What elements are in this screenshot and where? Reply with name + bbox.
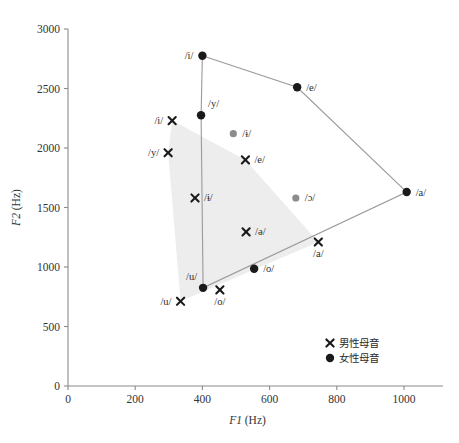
male-vowel-label: /u/ [160,296,171,307]
male-vowel-label: /i/ [154,115,163,126]
female-vowel-label: /ɨ/ [242,128,251,139]
vowel-formant-chart: 0200400600800100005001000150020002500300… [0,0,459,443]
y-tick-label: 0 [54,380,60,392]
male-vowel-label: /ɨ/ [204,192,213,203]
female-vowel-point[interactable] [198,52,206,60]
x-axis-title: F1 (Hz) [228,414,266,427]
y-tick-label: 500 [43,321,61,333]
female-vowel-point[interactable] [293,83,301,91]
male-vowel-label: /y/ [148,147,159,158]
female-vowel-point[interactable] [250,265,258,273]
female-vowel-point[interactable] [292,194,299,201]
plot-canvas: 0200400600800100005001000150020002500300… [0,0,459,443]
male-vowel-point[interactable] [216,286,223,293]
female-vowel-label: /i/ [185,50,194,61]
legend-dot-marker-icon [326,354,334,362]
x-tick-label: 200 [127,393,145,405]
x-tick-label: 400 [194,393,212,405]
y-axis-title: F2 (Hz) [10,189,23,227]
female-vowel-point[interactable] [230,130,237,137]
male-vowel-label: /ə/ [255,226,266,237]
x-tick-label: 800 [328,393,346,405]
female-vowel-point[interactable] [197,111,205,119]
male-vowel-label: /o/ [214,296,225,307]
female-vowel-label: /ɔ/ [305,192,316,203]
y-tick-label: 2500 [37,83,60,95]
x-tick-label: 600 [261,393,279,405]
female-vowel-label: /o/ [263,263,274,274]
y-tick-label: 3000 [37,23,60,35]
female-vowel-point[interactable] [402,188,410,196]
y-tick-label: 1000 [37,261,60,273]
x-tick-label: 0 [65,393,71,405]
y-tick-label: 2000 [37,142,60,154]
male-vowel-label: /a/ [313,248,324,259]
female-vowel-label: /y/ [208,98,219,109]
female-vowel-label: /e/ [306,82,317,93]
legend-entry-label: 男性母音 [339,337,379,349]
x-tick-label: 1000 [393,393,416,405]
male-vowel-label: /e/ [254,154,265,165]
female-vowel-label: /u/ [186,271,197,282]
female-vowel-point[interactable] [199,284,207,292]
legend-entry-label: 女性母音 [339,352,379,364]
female-vowel-label: /a/ [416,187,427,198]
y-tick-label: 1500 [37,202,60,214]
